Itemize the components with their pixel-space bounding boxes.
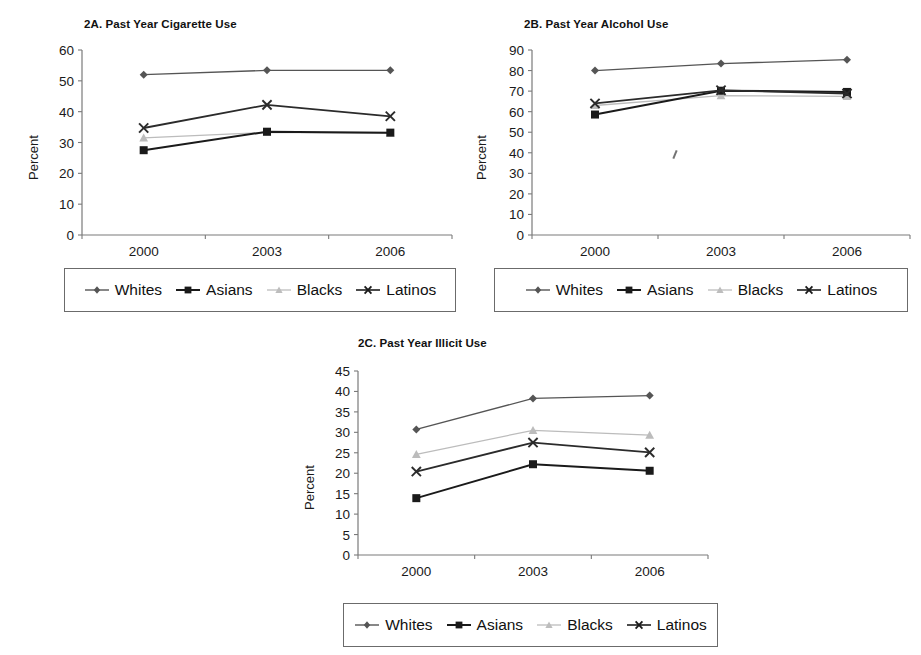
- svg-text:25: 25: [335, 446, 350, 461]
- legend-item-latinos: Latinos: [355, 281, 436, 299]
- legend-label-asians: Asians: [206, 281, 253, 299]
- x-marker-icon: [355, 283, 381, 297]
- svg-text:2006: 2006: [832, 244, 862, 259]
- legend-label-blacks: Blacks: [738, 281, 784, 299]
- svg-text:2000: 2000: [580, 244, 610, 259]
- legend-label-whites: Whites: [385, 616, 432, 634]
- svg-text:10: 10: [335, 507, 350, 522]
- svg-text:2003: 2003: [706, 244, 736, 259]
- svg-text:10: 10: [509, 207, 524, 222]
- legend-item-asians: Asians: [616, 281, 694, 299]
- svg-text:50: 50: [509, 125, 524, 140]
- svg-text:60: 60: [59, 43, 74, 58]
- square-marker-icon: [446, 618, 472, 632]
- legend-item-latinos: Latinos: [626, 616, 707, 634]
- y-axis-label-2C: Percent: [302, 465, 317, 510]
- diamond-marker-icon: [525, 283, 551, 297]
- svg-text:40: 40: [509, 146, 524, 161]
- svg-text:0: 0: [66, 228, 74, 243]
- svg-text:2006: 2006: [375, 244, 405, 259]
- legend-item-whites: Whites: [525, 281, 603, 299]
- plot-svg-2C: 051015202530354045200020032006: [316, 357, 716, 585]
- svg-text:0: 0: [516, 228, 524, 243]
- svg-text:15: 15: [335, 487, 350, 502]
- legend-label-asians: Asians: [477, 616, 524, 634]
- triangle-marker-icon: [536, 618, 562, 632]
- legend-item-latinos: Latinos: [796, 281, 877, 299]
- legend-item-whites: Whites: [354, 616, 432, 634]
- plot-area-2C: 051015202530354045200020032006: [316, 357, 716, 585]
- svg-text:70: 70: [509, 84, 524, 99]
- plot-area-2B: 0102030405060708090200020032006: [486, 40, 918, 265]
- svg-text:90: 90: [509, 43, 524, 58]
- svg-text:30: 30: [59, 136, 74, 151]
- legend-label-latinos: Latinos: [827, 281, 877, 299]
- legend-label-blacks: Blacks: [567, 616, 613, 634]
- plot-svg-2A: 0102030405060200020032006: [40, 40, 460, 265]
- legend-label-latinos: Latinos: [657, 616, 707, 634]
- svg-text:2000: 2000: [129, 244, 159, 259]
- chart-title-2A: 2A. Past Year Cigarette Use: [84, 18, 237, 30]
- diamond-marker-icon: [84, 283, 110, 297]
- legend-label-asians: Asians: [647, 281, 694, 299]
- svg-text:0: 0: [342, 548, 350, 563]
- svg-text:45: 45: [335, 364, 350, 379]
- legend-label-latinos: Latinos: [386, 281, 436, 299]
- legend-2A: Whites Asians Blacks Latinos: [64, 268, 456, 312]
- chart-panel-2B: 2B. Past Year Alcohol Use Percent 010203…: [462, 0, 921, 320]
- y-axis-label-2A: Percent: [26, 135, 41, 180]
- chart-title-2B: 2B. Past Year Alcohol Use: [524, 18, 668, 30]
- chart-panel-2A: 2A. Past Year Cigarette Use Percent 0102…: [0, 0, 470, 320]
- legend-item-blacks: Blacks: [266, 281, 343, 299]
- svg-text:20: 20: [59, 166, 74, 181]
- svg-text:2003: 2003: [252, 244, 282, 259]
- svg-text:10: 10: [59, 197, 74, 212]
- chart-panel-2C: 2C. Past Year Illicit Use Percent 051015…: [280, 325, 730, 655]
- x-marker-icon: [796, 283, 822, 297]
- chart-title-2C: 2C. Past Year Illicit Use: [358, 337, 487, 349]
- svg-text:50: 50: [59, 74, 74, 89]
- triangle-marker-icon: [266, 283, 292, 297]
- legend-item-asians: Asians: [175, 281, 253, 299]
- svg-text:5: 5: [342, 528, 350, 543]
- legend-2C: Whites Asians Blacks Latinos: [343, 603, 718, 647]
- legend-item-blacks: Blacks: [536, 616, 613, 634]
- legend-2B: Whites Asians Blacks Latinos: [494, 268, 908, 312]
- svg-text:60: 60: [509, 105, 524, 120]
- legend-label-whites: Whites: [556, 281, 603, 299]
- legend-item-whites: Whites: [84, 281, 162, 299]
- x-marker-icon: [626, 618, 652, 632]
- svg-text:20: 20: [335, 466, 350, 481]
- legend-item-blacks: Blacks: [707, 281, 784, 299]
- svg-text:20: 20: [509, 187, 524, 202]
- svg-text:30: 30: [509, 166, 524, 181]
- svg-text:40: 40: [59, 105, 74, 120]
- plot-svg-2B: 0102030405060708090200020032006: [486, 40, 918, 265]
- plot-area-2A: 0102030405060200020032006: [40, 40, 460, 265]
- svg-text:2006: 2006: [635, 564, 665, 579]
- diamond-marker-icon: [354, 618, 380, 632]
- svg-text:2000: 2000: [401, 564, 431, 579]
- svg-text:35: 35: [335, 405, 350, 420]
- legend-label-blacks: Blacks: [297, 281, 343, 299]
- legend-item-asians: Asians: [446, 616, 524, 634]
- svg-text:40: 40: [335, 384, 350, 399]
- square-marker-icon: [616, 283, 642, 297]
- svg-text:30: 30: [335, 425, 350, 440]
- svg-text:2003: 2003: [518, 564, 548, 579]
- legend-label-whites: Whites: [115, 281, 162, 299]
- svg-text:80: 80: [509, 64, 524, 79]
- square-marker-icon: [175, 283, 201, 297]
- triangle-marker-icon: [707, 283, 733, 297]
